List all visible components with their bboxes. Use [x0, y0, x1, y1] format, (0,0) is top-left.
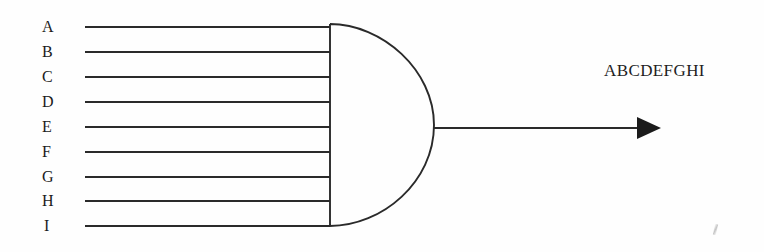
input-label-a: A — [42, 19, 54, 35]
input-label-i: I — [44, 218, 50, 234]
input-label-e: E — [42, 119, 52, 135]
and-gate-body — [330, 24, 434, 226]
output-expression-label: ABCDEFGHI — [604, 61, 705, 81]
output-arrowhead-icon — [637, 117, 661, 139]
input-label-h: H — [42, 193, 54, 209]
input-wires — [85, 27, 330, 226]
diagram-canvas: A B C D E F G H I ABCDEFGHI — [0, 0, 764, 252]
input-label-g: G — [42, 169, 54, 185]
input-label-c: C — [42, 69, 53, 85]
input-label-f: F — [42, 144, 51, 160]
input-label-d: D — [42, 94, 54, 110]
logic-gate-diagram — [0, 0, 764, 252]
input-label-b: B — [42, 44, 53, 60]
